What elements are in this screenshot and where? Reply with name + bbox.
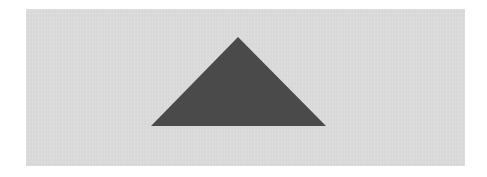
canvas [0,0,487,177]
triangle-shape [151,37,326,126]
triangle-icon [0,0,487,177]
